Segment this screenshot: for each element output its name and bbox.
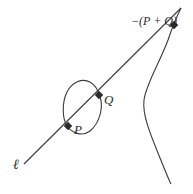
- point-neg-sum-label: −(P + Q): [131, 14, 177, 28]
- elliptic-curve-diagram: P Q −(P + Q) ℓ: [0, 0, 193, 194]
- point-p-label: P: [73, 122, 82, 137]
- line-label: ℓ: [13, 157, 19, 172]
- secant-line: [24, 8, 181, 164]
- curve-unbounded-branch: [144, 8, 181, 184]
- point-q-label: Q: [104, 92, 114, 107]
